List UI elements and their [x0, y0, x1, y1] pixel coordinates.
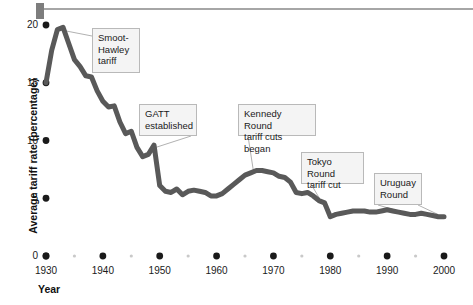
annotation-kennedy-round: Kennedy Round tariff cuts began	[238, 104, 316, 136]
annotation-gatt: GATT established	[139, 104, 197, 136]
x-tick-label-1980: 1980	[310, 265, 350, 276]
x-tick-label-1940: 1940	[83, 265, 123, 276]
x-tick-label-1960: 1960	[197, 265, 237, 276]
x-axis-title: Year	[38, 283, 60, 295]
annotation-smoot-hawley: Smoot- Hawley tariff	[92, 28, 140, 73]
x-tick-label-1930: 1930	[26, 265, 66, 276]
y-tick-label-20: 20	[12, 19, 38, 30]
annotation-uruguay-round: Uruguay Round	[374, 173, 422, 205]
y-axis-title: Average tariff rate (percentage)	[27, 61, 39, 251]
x-tick-label-1970: 1970	[253, 265, 293, 276]
annotation-tokyo-round: Tokyo Round tariff cut	[301, 152, 364, 184]
y-tick-label-0: 0	[12, 250, 38, 261]
tariff-rate-chart-figure: 0 5 10 15 20 1930 1940 1950 1960 1970 19…	[0, 0, 473, 305]
chart-plot-area	[0, 0, 473, 305]
x-tick-label-1950: 1950	[140, 265, 180, 276]
x-tick-label-1990: 1990	[367, 265, 407, 276]
x-tick-label-2000: 2000	[424, 265, 464, 276]
x-axis-minor-ticks	[73, 254, 417, 257]
